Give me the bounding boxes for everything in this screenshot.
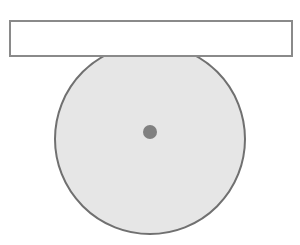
- horizontal-bar: [10, 21, 292, 56]
- geometry-figure: [0, 0, 300, 245]
- center-dot: [143, 125, 157, 139]
